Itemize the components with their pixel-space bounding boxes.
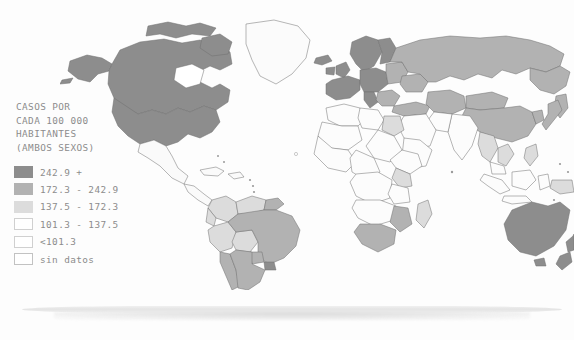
legend-swatch-1 — [14, 183, 33, 195]
legend-label-4: <101.3 — [40, 236, 76, 247]
pacific-island-dot-3 — [553, 199, 555, 201]
pacific-island-dot-2 — [567, 171, 569, 173]
legend-swatch-0 — [14, 166, 33, 178]
region-uruguay — [264, 262, 276, 270]
region-congo — [350, 172, 392, 204]
page-curl-band-inner — [54, 312, 529, 320]
region-turkey — [392, 102, 430, 116]
region-india — [448, 114, 478, 160]
legend-swatch-5 — [14, 253, 33, 265]
legend-swatch-2 — [14, 201, 33, 213]
bahamas-dot-1 — [217, 155, 219, 157]
region-france-iberia — [326, 76, 360, 100]
region-tasmania — [534, 258, 546, 266]
antilles-dot-3 — [253, 191, 255, 193]
map-svg — [60, 14, 574, 290]
page-curl-band — [22, 306, 562, 313]
legend-item[interactable]: <101.3 — [14, 233, 132, 250]
indian-ocean-dot — [451, 171, 453, 173]
region-new-guinea — [550, 180, 574, 194]
pacific-island-dot-1 — [559, 163, 561, 165]
region-central-asia — [426, 90, 466, 114]
region-mexico — [138, 140, 188, 184]
region-vietnam — [498, 144, 514, 166]
atlantic-island-dot — [294, 152, 297, 155]
legend-item[interactable]: 242.9 + — [14, 163, 132, 180]
region-zimbabwe-mozambique — [390, 206, 412, 232]
region-central-america — [184, 184, 212, 206]
legend-label-3: 101.3 - 137.5 — [40, 219, 119, 230]
world-choropleth-map — [60, 14, 574, 290]
region-madagascar — [416, 200, 432, 228]
region-russia-east — [530, 66, 570, 94]
region-mongolia — [466, 92, 508, 110]
legend-item[interactable]: 101.3 - 137.5 — [14, 216, 132, 233]
antilles-dot-1 — [249, 179, 251, 181]
region-angola-zambia — [352, 200, 396, 226]
region-sulawesi — [538, 174, 550, 190]
region-canadian-arctic-islands — [146, 22, 216, 38]
region-scandinavia — [350, 36, 382, 72]
region-balkans — [376, 90, 400, 106]
region-uk — [336, 62, 350, 78]
region-greenland — [246, 20, 310, 84]
bahamas-dot-2 — [223, 161, 225, 163]
map-legend: CASOS POR CADA 100 000 HABITANTES (AMBOS… — [14, 100, 132, 268]
region-hispaniola — [228, 172, 244, 179]
region-borneo — [512, 170, 536, 190]
region-cuba — [200, 167, 224, 176]
region-new-zealand-south — [556, 252, 572, 270]
page-curl-shadow — [22, 304, 562, 326]
legend-item[interactable]: 172.3 - 242.9 — [14, 181, 132, 198]
region-ireland — [326, 67, 335, 75]
legend-title: CASOS POR CADA 100 000 HABITANTES (AMBOS… — [16, 100, 132, 154]
region-south-africa — [354, 224, 396, 252]
region-australia — [504, 202, 570, 256]
region-alaska — [68, 55, 112, 82]
region-new-zealand-north — [566, 234, 574, 252]
region-iceland — [314, 55, 332, 65]
region-libya — [358, 108, 384, 130]
antilles-dot-2 — [252, 185, 254, 187]
legend-label-5: sin datos — [40, 254, 94, 265]
region-java — [502, 196, 532, 204]
region-central-europe — [360, 68, 388, 92]
scanned-page: CASOS POR CADA 100 000 HABITANTES (AMBOS… — [0, 0, 574, 340]
legend-item[interactable]: 137.5 - 172.3 — [14, 198, 132, 215]
legend-label-0: 242.9 + — [40, 167, 82, 178]
region-philippines — [524, 144, 538, 166]
region-aleutians — [60, 78, 73, 84]
legend-item[interactable]: sin datos — [14, 250, 132, 267]
legend-swatch-3 — [14, 218, 33, 230]
legend-label-2: 137.5 - 172.3 — [40, 201, 119, 212]
region-sumatra — [480, 174, 510, 194]
region-guianas — [264, 198, 284, 210]
legend-swatch-4 — [14, 236, 33, 248]
legend-label-1: 172.3 - 242.9 — [40, 184, 119, 195]
